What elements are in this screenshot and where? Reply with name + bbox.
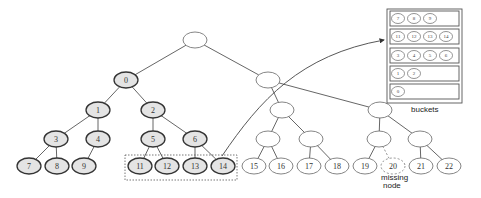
node-label: 22 — [445, 162, 453, 171]
tree-node-empty — [408, 131, 432, 147]
tree-node-empty — [256, 131, 280, 147]
node-label: 14 — [219, 162, 227, 171]
node-label: 12 — [163, 162, 171, 171]
node-label: 21 — [417, 162, 425, 171]
node-label: 17 — [305, 162, 313, 171]
tree-node-empty — [299, 131, 323, 147]
buckets-caption: buckets — [411, 105, 439, 114]
node-label: 9 — [82, 162, 86, 171]
missing-node-label-2: node — [383, 181, 401, 190]
tree-node-20: 20 — [381, 158, 405, 174]
node-ellipse — [299, 131, 323, 147]
tree-node-17: 17 — [297, 158, 321, 174]
node-label: 13 — [191, 162, 199, 171]
node-label: 16 — [277, 162, 285, 171]
bucket-node-label: 14 — [444, 34, 450, 39]
tree-node-empty — [183, 32, 207, 48]
tree-node-21: 21 — [409, 158, 433, 174]
tree-node-9: 9 — [72, 158, 96, 174]
node-ellipse — [408, 131, 432, 147]
node-label: 18 — [333, 162, 341, 171]
node-label: 11 — [136, 162, 144, 171]
tree-node-6: 6 — [183, 131, 207, 147]
node-label: 6 — [193, 135, 197, 144]
tree-node-18: 18 — [325, 158, 349, 174]
tree-node-5: 5 — [141, 131, 165, 147]
tree-node-empty — [367, 131, 391, 147]
node-label: 7 — [27, 162, 31, 171]
bucket-node-label: 12 — [412, 34, 418, 39]
node-label: 2 — [151, 106, 155, 115]
tree-node-4: 4 — [86, 131, 110, 147]
bucket-node-label: 11 — [396, 34, 401, 39]
tree-node-22: 22 — [437, 158, 461, 174]
node-label: 8 — [55, 162, 59, 171]
tree-node-2: 2 — [141, 102, 165, 118]
tree-node-15: 15 — [242, 158, 266, 174]
tree-node-empty — [270, 102, 294, 118]
tree-node-19: 19 — [353, 158, 377, 174]
node-ellipse — [368, 102, 392, 118]
tree-diagram: 0123456789111213141516171819202122 78911… — [0, 0, 481, 198]
tree-node-13: 13 — [183, 158, 207, 174]
node-label: 3 — [54, 135, 58, 144]
tree-node-7: 7 — [17, 158, 41, 174]
node-ellipse — [270, 102, 294, 118]
tree-node-empty — [368, 102, 392, 118]
tree-edge — [126, 40, 195, 80]
tree-node-1: 1 — [86, 102, 110, 118]
tree-node-12: 12 — [155, 158, 179, 174]
tree-node-14: 14 — [211, 158, 235, 174]
node-ellipse — [256, 72, 280, 88]
tree-node-0: 0 — [114, 72, 138, 88]
node-label: 19 — [361, 162, 369, 171]
tree-node-16: 16 — [269, 158, 293, 174]
tree-node-empty — [256, 72, 280, 88]
tree-node-11: 11 — [128, 158, 152, 174]
node-label: 0 — [124, 76, 128, 85]
node-label: 5 — [151, 135, 155, 144]
node-ellipse — [367, 131, 391, 147]
node-ellipse — [256, 131, 280, 147]
node-ellipse — [183, 32, 207, 48]
node-label: 1 — [96, 106, 100, 115]
node-label: 4 — [96, 135, 100, 144]
tree-node-8: 8 — [45, 158, 69, 174]
node-label: 15 — [250, 162, 258, 171]
tree-node-3: 3 — [44, 131, 68, 147]
bucket-node-label: 13 — [428, 34, 434, 39]
node-label: 20 — [389, 162, 397, 171]
buckets-panel: 789111213143456120 — [387, 9, 462, 103]
tree-edge — [195, 40, 268, 80]
